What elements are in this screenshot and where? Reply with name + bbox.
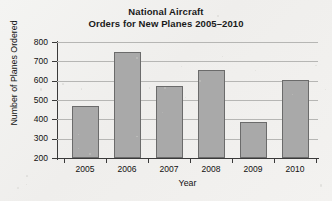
y-axis-tick-label: 700 bbox=[22, 57, 48, 66]
texture-speck bbox=[217, 15, 219, 17]
chart-figure: National Aircraft Orders for New Planes … bbox=[0, 0, 332, 201]
y-axis-tick bbox=[52, 42, 57, 43]
y-axis-tick bbox=[52, 158, 57, 159]
x-axis-tick bbox=[64, 158, 65, 163]
texture-speck bbox=[78, 134, 79, 135]
texture-speck bbox=[181, 66, 182, 67]
texture-speck bbox=[185, 97, 186, 98]
texture-speck bbox=[81, 88, 83, 90]
x-axis-tick bbox=[274, 158, 275, 163]
texture-speck bbox=[292, 94, 293, 95]
x-axis-tick bbox=[106, 158, 107, 163]
texture-speck bbox=[162, 112, 163, 113]
y-axis-tick bbox=[52, 100, 57, 101]
texture-speck bbox=[40, 88, 42, 90]
y-axis-tick bbox=[52, 81, 57, 82]
y-axis-tick-label: 600 bbox=[22, 76, 48, 85]
y-axis-tick-label: 800 bbox=[22, 38, 48, 47]
gridline bbox=[57, 61, 318, 62]
x-axis-line bbox=[56, 158, 319, 159]
x-axis-tick bbox=[232, 158, 233, 163]
texture-speck bbox=[78, 148, 79, 149]
x-axis-tick-label: 2005 bbox=[63, 164, 107, 174]
bar-2005 bbox=[72, 106, 99, 158]
bar-2008 bbox=[198, 70, 225, 158]
y-axis-tick-label: 400 bbox=[22, 115, 48, 124]
x-axis-tick-label: 2010 bbox=[273, 164, 317, 174]
x-axis-tick-label: 2009 bbox=[231, 164, 275, 174]
x-axis-tick-label: 2007 bbox=[147, 164, 191, 174]
texture-speck bbox=[149, 18, 150, 19]
texture-speck bbox=[325, 89, 326, 90]
bar-2006 bbox=[114, 52, 141, 158]
texture-speck bbox=[26, 175, 28, 177]
bar-2007 bbox=[156, 86, 183, 158]
texture-speck bbox=[17, 187, 19, 189]
x-axis-tick-label: 2006 bbox=[105, 164, 149, 174]
texture-speck bbox=[320, 184, 322, 186]
y-axis-tick-label: 200 bbox=[22, 154, 48, 163]
y-axis-tick bbox=[52, 61, 57, 62]
y-axis-tick bbox=[52, 139, 57, 140]
gridline bbox=[57, 100, 318, 101]
y-axis-title: Number of Planes Ordered bbox=[9, 7, 19, 139]
x-axis-title: Year bbox=[57, 178, 318, 188]
plot-area bbox=[57, 42, 318, 158]
texture-speck bbox=[222, 56, 223, 57]
y-axis-tick bbox=[52, 119, 57, 120]
texture-speck bbox=[136, 57, 138, 59]
y-axis-tick-label: 300 bbox=[22, 134, 48, 143]
bar-2010 bbox=[282, 80, 309, 158]
x-axis-tick-label: 2008 bbox=[189, 164, 233, 174]
gridline bbox=[57, 42, 318, 43]
chart-title-line-2: Orders for New Planes 2005–2010 bbox=[0, 18, 332, 29]
texture-speck bbox=[149, 87, 150, 88]
y-axis-tick-label: 500 bbox=[22, 96, 48, 105]
x-axis-tick bbox=[190, 158, 191, 163]
x-axis-tick bbox=[316, 158, 317, 163]
gridline bbox=[57, 81, 318, 82]
x-axis-tick bbox=[148, 158, 149, 163]
texture-speck bbox=[315, 65, 317, 67]
chart-title-line-1: National Aircraft bbox=[0, 6, 332, 17]
bar-2009 bbox=[240, 122, 267, 158]
texture-speck bbox=[26, 184, 27, 185]
texture-speck bbox=[199, 80, 201, 82]
